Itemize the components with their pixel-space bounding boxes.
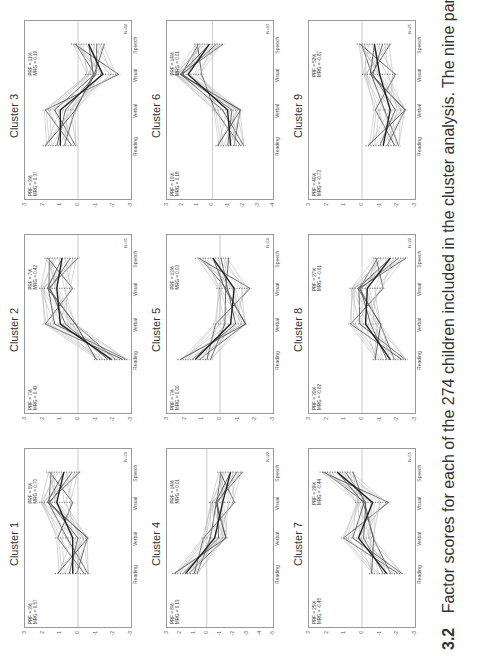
y-tick-label: -3 (243, 631, 249, 635)
y-tick-label: 0 (203, 631, 209, 634)
y-tick-label: 0 (208, 203, 214, 206)
y-tick-label: 1 (56, 417, 62, 420)
plot-area: PRF = 30%MRG = -0.62PRF = 27%MRG = -0.61… (308, 234, 416, 414)
y-tick-label: 2 (39, 631, 45, 634)
y-tick-label: 2 (323, 631, 329, 634)
sample-size-label: N=35 (123, 238, 128, 248)
x-tick-label: Speech (416, 251, 422, 268)
panel-title: Cluster 2 (8, 232, 20, 428)
y-tick-label: 0 (216, 417, 222, 420)
panel-title: Cluster 3 (8, 18, 20, 214)
y-tick-label: 3 (305, 631, 311, 634)
cluster-panel-8: Cluster 83210-1-2-3PRF = 30%MRG = -0.62P… (292, 232, 428, 428)
x-axis-labels: ReadingVerbalVisualSpeech (274, 450, 284, 628)
stat-right: PRF = 27%MRG = -0.61 (312, 265, 322, 291)
y-tick-label: 0 (74, 631, 80, 634)
x-tick-label: Verbal (274, 318, 280, 332)
y-tick-label: 1 (340, 631, 346, 634)
x-tick-label: Visual (416, 69, 422, 83)
stat-left: PRF = 40%MRG = -0.73 (312, 170, 322, 196)
cluster-panel-4: Cluster 43210-1-2-3-4-5PRF = 8%MRG = 0.1… (150, 446, 286, 642)
plot-area: PRF = 7%MRG = 0.00PRF = 13%MRG = 0.03N=5… (166, 234, 274, 414)
stat-line: MRG = 0.18 (175, 172, 180, 196)
x-tick-label: Reading (274, 137, 280, 156)
x-axis-labels: ReadingVerbalVisualSpeech (132, 22, 142, 200)
stat-left: PRF = 10%MRG = 0.18 (170, 172, 180, 196)
y-tick-label: -3 (127, 417, 133, 421)
x-tick-label: Reading (132, 351, 138, 370)
sample-size-label: N=55 (407, 452, 412, 462)
sample-size-label: N=22 (407, 238, 412, 248)
x-tick-label: Visual (274, 283, 280, 297)
y-tick-label: -2 (251, 417, 257, 421)
x-tick-label: Visual (274, 69, 280, 83)
sample-size-label: N=43 (265, 24, 270, 34)
panel-title: Cluster 8 (292, 232, 304, 428)
plot-area: PRF = 8%MRG = 0.13PRF = 14%MRG = 0.01N=2… (166, 448, 274, 628)
y-tick-label: 2 (323, 203, 329, 206)
stat-line: MRG = -0.87 (317, 51, 322, 77)
y-tick-label: 2 (39, 203, 45, 206)
y-tick-label: -3 (269, 417, 275, 421)
y-tick-label: 3 (305, 417, 311, 420)
x-tick-label: Speech (416, 465, 422, 482)
x-axis-labels: ReadingVerbalVisualSpeech (416, 450, 426, 628)
x-tick-label: Speech (274, 465, 280, 482)
panel-title: Cluster 6 (150, 18, 162, 214)
cluster-panel-3: Cluster 33210-1-2-3PRF = 9%MRG = 0.37PRF… (8, 18, 144, 214)
profile-lines (167, 21, 273, 199)
y-tick-label: -2 (229, 631, 235, 635)
stat-left: PRF = 9%MRG = 0.37 (28, 172, 38, 196)
stat-line: MRG = 0.42 (33, 265, 38, 289)
x-tick-label: Speech (132, 465, 138, 482)
y-tick-label: -2 (393, 631, 399, 635)
y-tick-label: 1 (340, 203, 346, 206)
y-tick-label: 0 (358, 203, 364, 206)
profile-lines (25, 449, 131, 627)
x-tick-label: Visual (132, 497, 138, 511)
y-tick-label: -1 (216, 631, 222, 635)
x-tick-label: Reading (132, 565, 138, 584)
y-tick-label: 1 (193, 203, 199, 206)
y-axis-ticks: 3210-1-2-3 (308, 202, 414, 214)
x-tick-label: Visual (132, 69, 138, 83)
x-axis-labels: ReadingVerbalVisualSpeech (416, 22, 426, 200)
stat-left: PRF = 30%MRG = -0.62 (312, 384, 322, 410)
y-tick-label: 2 (323, 417, 329, 420)
plot-area: PRF = 9%MRG = 0.37PRF = 11%MRG = 0.19N=4… (24, 20, 132, 200)
y-tick-label: 1 (190, 631, 196, 634)
y-tick-label: 3 (305, 203, 311, 206)
cluster-panel-5: Cluster 53210-1-2-3PRF = 7%MRG = 0.00PRF… (150, 232, 286, 428)
panel-title: Cluster 5 (150, 232, 162, 428)
figure-frame: Cluster 13210-1-2-3PRF = 3%MRG = 0.57PRF… (0, 0, 485, 656)
stat-left: PRF = 7%MRG = 0.00 (170, 386, 180, 410)
sample-size-label: N=22 (265, 452, 270, 462)
y-tick-label: -3 (411, 631, 417, 635)
y-axis-ticks: 3210-1-2-3 (24, 202, 130, 214)
stat-line: MRG = 0.37 (33, 172, 38, 196)
stat-line: MRG = 0.70 (33, 479, 38, 503)
stat-right: PRF = 14%MRG = 0.01 (170, 479, 180, 503)
x-tick-label: Verbal (416, 104, 422, 118)
stat-line: MRG = 0.13 (175, 600, 180, 624)
stat-line: MRG = -0.73 (317, 170, 322, 196)
x-axis-labels: ReadingVerbalVisualSpeech (416, 236, 426, 414)
stat-right: PRF = 13%MRG = 0.03 (170, 265, 180, 289)
x-tick-label: Verbal (274, 532, 280, 546)
y-tick-label: -2 (393, 203, 399, 207)
profile-lines (25, 21, 131, 199)
x-tick-label: Visual (274, 497, 280, 511)
x-tick-label: Reading (132, 137, 138, 156)
y-tick-label: 2 (39, 417, 45, 420)
x-tick-label: Reading (416, 565, 422, 584)
x-tick-label: Verbal (416, 532, 422, 546)
stat-left: PRF = 3%MRG = 0.57 (28, 600, 38, 624)
sample-size-label: N=44 (123, 24, 128, 34)
y-tick-label: 0 (358, 631, 364, 634)
y-tick-label: -1 (234, 417, 240, 421)
y-tick-label: 1 (56, 631, 62, 634)
x-tick-label: Reading (416, 137, 422, 156)
plot-area: PRF = 7%MRG = 0.43PRF = 7%MRG = 0.42N=35 (24, 234, 132, 414)
x-tick-label: Reading (274, 351, 280, 370)
y-tick-label: -1 (376, 203, 382, 207)
